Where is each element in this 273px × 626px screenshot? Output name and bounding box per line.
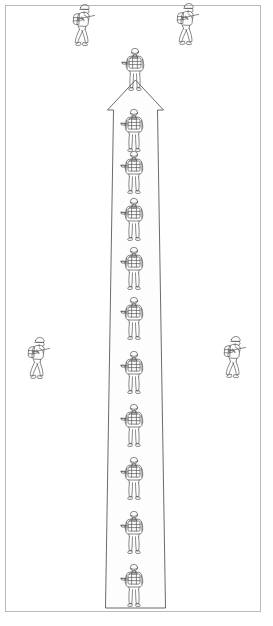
diagram-border: [5, 5, 261, 612]
diagram-canvas: Infantry column movement diagram Column …: [0, 0, 273, 626]
